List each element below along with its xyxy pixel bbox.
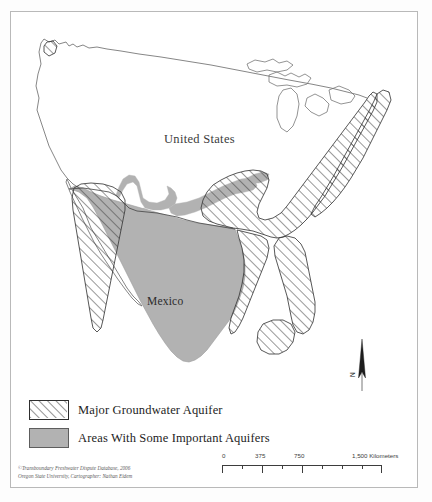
legend-item-major-groundwater-aquifer: Major Groundwater Aquifer [29,398,289,422]
hatch-yucatan [257,320,295,354]
scale-bar-graphic [222,465,407,474]
credit-line-1: ©Transboundary Freshwater Dispute Databa… [18,464,132,472]
map-figure: United States Mexico N Major Groundwater… [0,0,432,502]
scale-tick-1500: 1,500 Kilometers [352,452,398,459]
legend-label-areas-with-some-important-aquifers: Areas With Some Important Aquifers [78,431,270,446]
scale-bar: 0 375 750 1,500 Kilometers [222,452,407,474]
map-canvas: United States Mexico [11,12,417,387]
north-arrow: N [349,338,375,394]
legend-swatch-hatch-icon [29,400,69,420]
scale-tick-750: 750 [294,452,304,459]
credit-line-2: Oregon State University, Cartographer: N… [18,472,132,480]
label-mexico: Mexico [147,295,183,307]
hatch-southwest [72,183,125,332]
legend-item-areas-with-some-important-aquifers: Areas With Some Important Aquifers [29,426,289,450]
scale-tick-375: 375 [255,452,265,459]
map-svg [11,12,417,387]
scale-bar-labels: 0 375 750 1,500 Kilometers [222,452,407,464]
hatch-nw-patch [44,41,57,56]
credit-block: ©Transboundary Freshwater Dispute Databa… [18,464,132,480]
legend: Major Groundwater Aquifer Areas With Som… [29,398,289,454]
north-arrow-label: N [349,372,356,377]
hatch-florida [274,236,315,334]
hatch-atlantic-coast [311,90,391,217]
legend-swatch-gray-icon [29,428,69,448]
legend-label-major-groundwater-aquifer: Major Groundwater Aquifer [78,403,223,418]
label-united-states: United States [164,132,235,147]
great-lakes-outline [247,59,355,132]
scale-tick-0: 0 [222,452,225,459]
